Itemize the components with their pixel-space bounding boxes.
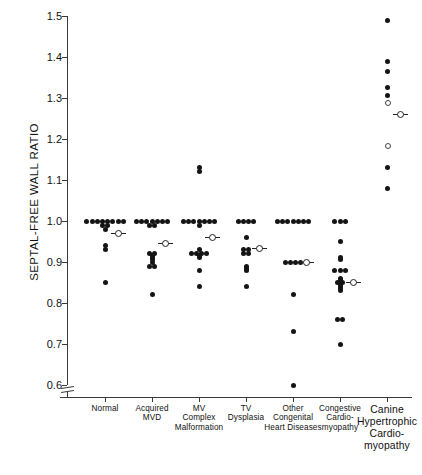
data-point [340, 317, 345, 322]
data-point [103, 247, 108, 252]
data-point [197, 223, 202, 228]
y-tick-mark [62, 262, 67, 263]
group-mean-marker [256, 245, 263, 252]
data-point [165, 219, 170, 224]
data-point [121, 219, 126, 224]
data-point [189, 251, 194, 256]
data-point [95, 219, 100, 224]
data-point [197, 268, 202, 273]
data-point [338, 268, 343, 273]
data-point [296, 219, 301, 224]
data-point [385, 93, 390, 98]
data-point [291, 219, 296, 224]
data-point [338, 342, 343, 347]
x-tick-mark [105, 397, 106, 402]
data-point [385, 186, 390, 191]
y-tick-label: 1.2 [28, 134, 62, 144]
data-point [385, 59, 390, 64]
group-mean-marker [303, 259, 310, 266]
x-category-label: CanineHypertrophicCardio-myopathy [352, 404, 422, 452]
data-point [191, 219, 196, 224]
group-mean-marker [162, 240, 169, 247]
y-tick-mark [62, 180, 67, 181]
data-point [197, 169, 202, 174]
data-point [90, 219, 95, 224]
x-category-label-line: Malformation [164, 423, 234, 432]
group-mean-marker [350, 279, 357, 286]
data-point [152, 264, 157, 269]
y-tick-label: 0.9 [28, 257, 62, 267]
data-point [343, 268, 348, 273]
group-mean-marker [115, 230, 122, 237]
data-point [385, 85, 390, 90]
y-tick-label: 1.0 [28, 216, 62, 226]
data-point [332, 268, 337, 273]
data-point [197, 255, 202, 260]
data-point [291, 329, 296, 334]
data-point [110, 219, 115, 224]
data-point [204, 251, 209, 256]
data-point [332, 219, 337, 224]
data-point [283, 260, 288, 265]
data-point [244, 235, 249, 240]
data-point-open [385, 100, 391, 106]
x-tick-mark [199, 397, 200, 402]
data-point [103, 227, 108, 232]
y-tick-label: 1.3 [28, 93, 62, 103]
axis-break-mark-upper [61, 386, 74, 389]
mean-circle [397, 111, 404, 118]
y-tick-label: 0.8 [28, 298, 62, 308]
data-point [244, 284, 249, 289]
y-tick-label: 1.4 [28, 52, 62, 62]
y-tick-label: 0.7 [28, 339, 62, 349]
x-tick-mark [387, 397, 388, 402]
data-point [385, 165, 390, 170]
group-mean-marker [397, 111, 404, 118]
y-tick-label: 0.6 [28, 380, 62, 390]
mean-circle [350, 279, 357, 286]
x-tick-mark [340, 397, 341, 402]
y-tick-label: 1.5 [28, 11, 62, 21]
data-point [244, 268, 249, 273]
mean-circle [115, 230, 122, 237]
data-point [251, 219, 256, 224]
y-tick-mark [62, 98, 67, 99]
data-point [385, 69, 390, 74]
data-point [338, 257, 343, 262]
y-tick-mark [62, 16, 67, 17]
data-point-open [385, 143, 391, 149]
data-point [343, 219, 348, 224]
data-point [338, 219, 343, 224]
y-tick-mark [62, 139, 67, 140]
mean-circle [209, 234, 216, 241]
y-tick-mark [62, 344, 67, 345]
data-point [84, 219, 89, 224]
data-point [285, 219, 290, 224]
data-point [338, 288, 343, 293]
mean-circle [303, 259, 310, 266]
mean-circle [256, 245, 263, 252]
x-tick-mark [246, 397, 247, 402]
x-category-label-line: Cardio- [352, 428, 422, 440]
x-category-label-line: Canine [352, 404, 422, 416]
y-axis-line [67, 16, 68, 385]
group-mean-marker [209, 234, 216, 241]
y-tick-mark [62, 221, 67, 222]
y-tick-mark [62, 303, 67, 304]
data-point [306, 219, 311, 224]
y-tick-label: 1.1 [28, 175, 62, 185]
y-tick-mark [62, 57, 67, 58]
data-point [150, 292, 155, 297]
data-point [236, 219, 241, 224]
x-axis-line [60, 397, 412, 398]
data-point [338, 239, 343, 244]
y-axis-tick-labels: 1.51.41.31.21.11.00.90.80.70.6 [28, 0, 62, 475]
x-category-label-line: myopathy [352, 440, 422, 452]
x-tick-mark [293, 397, 294, 402]
data-point [246, 251, 251, 256]
mean-circle [162, 240, 169, 247]
data-point [116, 219, 121, 224]
data-point [212, 219, 217, 224]
data-point [202, 219, 207, 224]
